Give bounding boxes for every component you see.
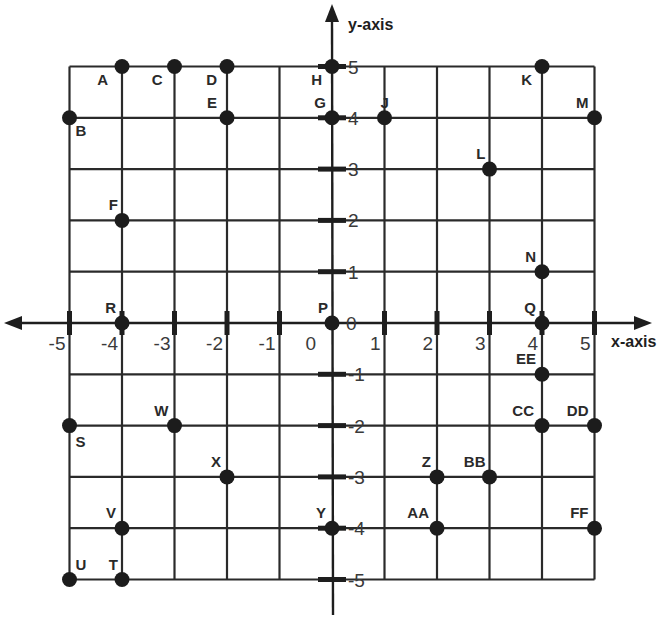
point-n: N <box>525 248 549 280</box>
point-p: P <box>318 299 340 331</box>
point-label: AA <box>407 504 429 521</box>
point-label: S <box>76 433 86 450</box>
x-tick-label: 1 <box>370 333 381 354</box>
y-tick-label: 5 <box>348 57 359 78</box>
x-axis-title: x-axis <box>611 333 656 350</box>
point-label: R <box>105 299 116 316</box>
y-tick-label: -4 <box>348 518 365 539</box>
point-g: G <box>314 94 339 126</box>
point-label: F <box>109 196 118 213</box>
point-l: L <box>476 145 497 177</box>
y-tick-label: -3 <box>348 467 365 488</box>
point-u: U <box>62 556 86 588</box>
point-marker-icon <box>535 264 550 279</box>
y-tick-label: -1 <box>348 364 365 385</box>
point-label: G <box>314 94 326 111</box>
point-label: W <box>154 402 169 419</box>
point-b: B <box>62 110 87 139</box>
point-label: DD <box>567 402 589 419</box>
point-marker-icon <box>167 59 182 74</box>
y-tick-label: -2 <box>348 416 365 437</box>
point-marker-icon <box>535 59 550 74</box>
point-marker-icon <box>535 418 550 433</box>
point-marker-icon <box>115 59 130 74</box>
x-axis-left-arrow-icon <box>4 316 22 330</box>
point-label: P <box>318 299 328 316</box>
point-label: EE <box>516 350 536 367</box>
point-x: X <box>211 453 235 485</box>
point-y: Y <box>316 504 340 536</box>
coordinate-grid-diagram: -5-4-3-2-1012345543210-1-2-3-4-5 x-axis … <box>0 0 671 617</box>
point-s: S <box>62 418 86 450</box>
point-t: T <box>109 556 130 588</box>
point-cc: CC <box>512 402 549 434</box>
x-tick-label: 5 <box>580 333 591 354</box>
point-label: C <box>152 71 163 88</box>
point-marker-icon <box>482 469 497 484</box>
x-tick-label: 0 <box>305 333 316 354</box>
point-f: F <box>109 196 130 228</box>
point-e: E <box>207 94 235 126</box>
point-c: C <box>152 59 182 88</box>
point-label: X <box>211 453 221 470</box>
x-tick-label: -1 <box>259 333 276 354</box>
point-w: W <box>154 402 182 434</box>
x-tick-label: -5 <box>49 333 66 354</box>
point-marker-icon <box>167 418 182 433</box>
point-marker-icon <box>482 162 497 177</box>
point-marker-icon <box>220 469 235 484</box>
point-ee: EE <box>516 350 550 382</box>
point-h: H <box>311 59 339 88</box>
point-marker-icon <box>62 572 77 587</box>
y-tick-label: 3 <box>348 159 359 180</box>
point-marker-icon <box>220 110 235 125</box>
point-r: R <box>105 299 129 331</box>
y-tick-label: -5 <box>348 570 365 591</box>
point-marker-icon <box>535 367 550 382</box>
point-a: A <box>97 59 129 88</box>
point-marker-icon <box>62 418 77 433</box>
y-tick-label: 1 <box>348 262 359 283</box>
point-d: D <box>206 59 234 88</box>
point-label: M <box>576 94 589 111</box>
x-tick-label: -2 <box>206 333 223 354</box>
y-axis-title: y-axis <box>348 16 393 33</box>
point-label: J <box>381 94 389 111</box>
x-tick-label: -3 <box>154 333 171 354</box>
point-marker-icon <box>115 316 130 331</box>
y-axis-up-arrow-icon <box>325 4 339 22</box>
point-marker-icon <box>325 59 340 74</box>
point-bb: BB <box>464 453 497 485</box>
point-label: Y <box>316 504 326 521</box>
point-marker-icon <box>430 469 445 484</box>
x-axis-right-arrow-icon <box>634 316 652 330</box>
point-label: K <box>521 71 532 88</box>
point-label: E <box>207 94 217 111</box>
point-label: D <box>206 71 217 88</box>
x-tick-label: 3 <box>475 333 486 354</box>
point-m: M <box>576 94 602 126</box>
point-marker-icon <box>535 316 550 331</box>
x-tick-label: 2 <box>422 333 433 354</box>
point-label: Z <box>422 453 431 470</box>
point-marker-icon <box>325 110 340 125</box>
point-marker-icon <box>115 213 130 228</box>
point-q: Q <box>524 299 549 331</box>
point-label: FF <box>570 504 588 521</box>
point-marker-icon <box>377 110 392 125</box>
point-label: L <box>476 145 485 162</box>
y-tick-label: 4 <box>348 108 359 129</box>
point-j: J <box>377 94 392 126</box>
point-aa: AA <box>407 504 444 536</box>
point-marker-icon <box>587 418 602 433</box>
point-z: Z <box>422 453 445 485</box>
point-label: H <box>311 71 322 88</box>
point-k: K <box>521 59 549 88</box>
y-tick-label: 2 <box>348 210 359 231</box>
point-label: U <box>76 556 87 573</box>
point-marker-icon <box>220 59 235 74</box>
point-label: V <box>106 504 116 521</box>
x-tick-label: -4 <box>101 333 118 354</box>
point-label: CC <box>512 402 534 419</box>
point-marker-icon <box>325 521 340 536</box>
